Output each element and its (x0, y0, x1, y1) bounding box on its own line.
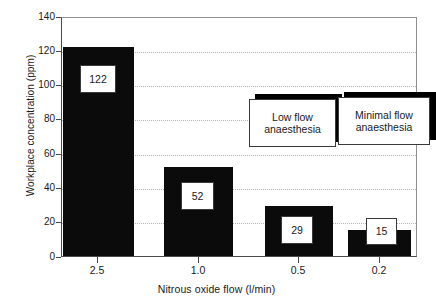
value-label-0.2: 15 (366, 218, 397, 245)
annotation-minimal-flow-line2: anaesthesia (356, 121, 413, 134)
annotation-low-flow-body: Low flow anaesthesia (249, 99, 336, 147)
y-tick-label-80: 80 (21, 114, 55, 124)
y-tick-label-40: 40 (21, 183, 55, 193)
annotation-minimal-flow: Minimal flow anaesthesia (338, 97, 430, 145)
value-label-2.5: 122 (80, 65, 116, 93)
x-tick-label-0.2: 0.2 (349, 264, 409, 276)
value-label-1.0: 52 (181, 182, 214, 210)
y-tick-label-20: 20 (21, 217, 55, 227)
annotation-low-flow-line2: anaesthesia (264, 123, 321, 136)
bar-1.0 (164, 167, 233, 256)
plot-area: 122 52 29 15 Low flow anaesthesia Minima… (61, 17, 417, 257)
x-tick-mark-0.5 (298, 257, 299, 263)
value-label-0.5: 29 (281, 216, 313, 244)
y-tick-mark-0 (56, 257, 61, 258)
y-tick-label-140: 140 (21, 12, 55, 22)
x-tick-label-2.5: 2.5 (67, 264, 127, 276)
annotation-low-flow-line1: Low flow (272, 111, 313, 124)
x-tick-label-1.0: 1.0 (168, 264, 228, 276)
x-axis-title: Nitrous oxide flow (l/min) (0, 283, 433, 295)
annotation-minimal-flow-line1: Minimal flow (355, 109, 413, 122)
x-tick-label-0.5: 0.5 (268, 264, 328, 276)
annotation-minimal-flow-body: Minimal flow anaesthesia (338, 97, 430, 145)
y-tick-label-120: 120 (21, 46, 55, 56)
annotation-low-flow: Low flow anaesthesia (249, 99, 336, 147)
x-tick-mark-0.2 (379, 257, 380, 263)
y-tick-label-100: 100 (21, 80, 55, 90)
y-tick-label-0: 0 (21, 252, 55, 262)
x-tick-mark-1.0 (198, 257, 199, 263)
y-tick-label-60: 60 (21, 149, 55, 159)
x-tick-mark-2.5 (97, 257, 98, 263)
